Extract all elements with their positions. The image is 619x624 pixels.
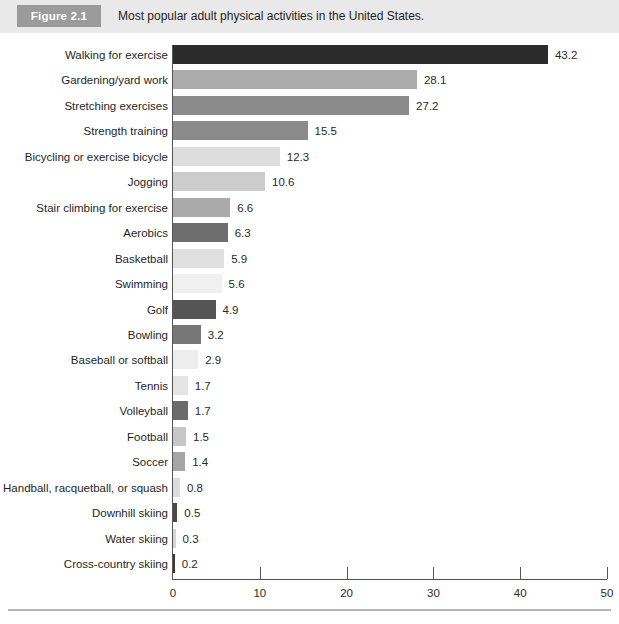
bar: [173, 45, 548, 64]
bar-row: Football1.5: [0, 426, 619, 453]
bar: [173, 452, 185, 471]
bar-value-label: 6.6: [237, 201, 253, 215]
bar-row: Tennis1.7: [0, 375, 619, 402]
bar-value-label: 6.3: [235, 226, 251, 240]
x-tick-label: 40: [514, 587, 527, 599]
bar-category-label: Soccer: [132, 455, 168, 469]
bar: [173, 401, 188, 420]
bar-row: Stair climbing for exercise6.6: [0, 197, 619, 224]
bar-value-label: 15.5: [315, 124, 337, 138]
bar: [173, 96, 409, 115]
bar-row: Bowling3.2: [0, 324, 619, 351]
bar-category-label: Football: [127, 430, 168, 444]
bar-row: Jogging10.6: [0, 171, 619, 198]
bar-category-label: Golf: [147, 303, 168, 317]
bar-category-label: Tennis: [135, 379, 168, 393]
bar: [173, 249, 224, 268]
bar-category-label: Strength training: [84, 124, 168, 138]
bar-row: Aerobics6.3: [0, 222, 619, 249]
bar-value-label: 12.3: [287, 150, 309, 164]
bar-value-label: 4.9: [223, 303, 239, 317]
bar-value-label: 0.8: [187, 481, 203, 495]
bar-category-label: Bowling: [128, 328, 168, 342]
bar-row: Volleyball1.7: [0, 400, 619, 427]
bar-value-label: 1.5: [193, 430, 209, 444]
bar: [173, 376, 188, 395]
bar-row: Swimming5.6: [0, 273, 619, 300]
bar-row: Basketball5.9: [0, 248, 619, 275]
bar-category-label: Cross-country skiing: [64, 557, 168, 571]
bar: [173, 300, 216, 319]
bar-category-label: Jogging: [128, 175, 168, 189]
bar-category-label: Walking for exercise: [65, 48, 168, 62]
bar-row: Soccer1.4: [0, 451, 619, 478]
bar-row: Walking for exercise43.2: [0, 44, 619, 71]
bar-category-label: Stair climbing for exercise: [36, 201, 168, 215]
bar: [173, 121, 308, 140]
bar-category-label: Stretching exercises: [64, 99, 168, 113]
bar-value-label: 1.7: [195, 379, 211, 393]
x-tick-mark: [520, 567, 521, 579]
bar: [173, 223, 228, 242]
bar-category-label: Water skiing: [105, 532, 168, 546]
x-tick-label: 20: [340, 587, 353, 599]
bar-row: Golf4.9: [0, 299, 619, 326]
bar: [173, 274, 222, 293]
bar-row: Gardening/yard work28.1: [0, 69, 619, 96]
bar-value-label: 1.7: [195, 404, 211, 418]
bar-row: Downhill skiing0.5: [0, 502, 619, 529]
bar-value-label: 27.2: [416, 99, 438, 113]
bar-value-label: 2.9: [205, 353, 221, 367]
bar-value-label: 43.2: [555, 48, 577, 62]
figure-caption: Most popular adult physical activities i…: [118, 9, 424, 23]
bar: [173, 198, 230, 217]
bar-value-label: 0.5: [184, 506, 200, 520]
bar: [173, 350, 198, 369]
bar-value-label: 0.2: [182, 557, 198, 571]
bar-value-label: 10.6: [272, 175, 294, 189]
bar-category-label: Basketball: [115, 252, 168, 266]
bar-row: Handball, racquetball, or squash0.8: [0, 477, 619, 504]
bar-value-label: 0.3: [183, 532, 199, 546]
bar-row: Bicycling or exercise bicycle12.3: [0, 146, 619, 173]
x-tick-mark: [433, 567, 434, 579]
bar-value-label: 3.2: [208, 328, 224, 342]
x-tick-label: 30: [427, 587, 440, 599]
bar: [173, 172, 265, 191]
bar: [173, 147, 280, 166]
bar: [173, 529, 176, 548]
bar-row: Baseball or softball2.9: [0, 349, 619, 376]
bar: [173, 554, 175, 573]
x-tick-label: 0: [170, 587, 176, 599]
bar: [173, 503, 177, 522]
bar: [173, 427, 186, 446]
bar: [173, 325, 201, 344]
figure-number-badge: Figure 2.1: [17, 5, 101, 27]
bar-category-label: Bicycling or exercise bicycle: [25, 150, 168, 164]
bar-chart: Walking for exercise43.2Gardening/yard w…: [0, 41, 619, 601]
bar-category-label: Baseball or softball: [71, 353, 168, 367]
bar-category-label: Swimming: [115, 277, 168, 291]
x-tick-mark: [607, 567, 608, 579]
bar-category-label: Downhill skiing: [92, 506, 168, 520]
bar-category-label: Gardening/yard work: [61, 73, 168, 87]
bar-row: Stretching exercises27.2: [0, 95, 619, 122]
bar-value-label: 28.1: [424, 73, 446, 87]
bar-value-label: 1.4: [192, 455, 208, 469]
bar-value-label: 5.9: [231, 252, 247, 266]
bar-category-label: Aerobics: [123, 226, 168, 240]
bar-row: Cross-country skiing0.2: [0, 553, 619, 580]
footer-rule: [8, 609, 611, 611]
bar: [173, 70, 417, 89]
bar-row: Water skiing0.3: [0, 528, 619, 555]
x-tick-label: 10: [253, 587, 266, 599]
figure-header-band: Figure 2.1 Most popular adult physical a…: [0, 0, 619, 33]
x-tick-label: 50: [601, 587, 614, 599]
x-tick-mark: [347, 567, 348, 579]
bar-row: Strength training15.5: [0, 120, 619, 147]
bar-category-label: Handball, racquetball, or squash: [3, 481, 168, 495]
bar-category-label: Volleyball: [119, 404, 168, 418]
bar: [173, 478, 180, 497]
bar-value-label: 5.6: [229, 277, 245, 291]
x-tick-mark: [260, 567, 261, 579]
